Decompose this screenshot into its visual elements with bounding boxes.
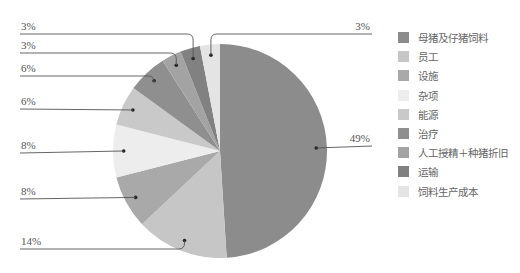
percent-label: 8% bbox=[21, 185, 36, 197]
legend-swatch bbox=[398, 147, 409, 158]
legend-label: 设施 bbox=[418, 68, 438, 83]
percent-label: 8% bbox=[21, 139, 36, 151]
percent-label: 3% bbox=[21, 20, 36, 32]
legend-swatch bbox=[398, 128, 409, 139]
legend-item: 母猪及仔猪饲料 bbox=[398, 28, 508, 47]
legend-item: 杂项 bbox=[398, 86, 508, 105]
legend: 母猪及仔猪饲料 员工 设施 杂项 能源 治疗 人工授精＋种猪折旧 运输 饲料生产… bbox=[398, 28, 508, 201]
legend-swatch bbox=[398, 186, 409, 197]
legend-label: 员工 bbox=[418, 49, 438, 64]
legend-swatch bbox=[398, 90, 409, 101]
percent-label: 14% bbox=[21, 235, 41, 247]
legend-label: 运输 bbox=[418, 164, 438, 179]
legend-label: 人工授精＋种猪折旧 bbox=[418, 145, 508, 160]
percent-label: 6% bbox=[21, 62, 36, 74]
pie-slice bbox=[220, 44, 327, 258]
legend-label: 杂项 bbox=[418, 88, 438, 103]
percent-label: 3% bbox=[355, 20, 370, 32]
legend-item: 饲料生产成本 bbox=[398, 182, 508, 201]
percent-label: 6% bbox=[21, 95, 36, 107]
legend-swatch bbox=[398, 109, 409, 120]
legend-item: 能源 bbox=[398, 105, 508, 124]
legend-item: 运输 bbox=[398, 162, 508, 181]
legend-swatch bbox=[398, 70, 409, 81]
legend-label: 饲料生产成本 bbox=[418, 184, 478, 199]
legend-item: 人工授精＋种猪折旧 bbox=[398, 143, 508, 162]
legend-item: 员工 bbox=[398, 47, 508, 66]
legend-label: 能源 bbox=[418, 107, 438, 122]
legend-label: 母猪及仔猪饲料 bbox=[418, 30, 488, 45]
legend-swatch bbox=[398, 166, 409, 177]
legend-item: 设施 bbox=[398, 66, 508, 85]
legend-item: 治疗 bbox=[398, 124, 508, 143]
legend-swatch bbox=[398, 51, 409, 62]
percent-label: 3% bbox=[21, 39, 36, 51]
percent-label: 49% bbox=[350, 132, 370, 144]
legend-label: 治疗 bbox=[418, 126, 438, 141]
legend-swatch bbox=[398, 32, 409, 43]
